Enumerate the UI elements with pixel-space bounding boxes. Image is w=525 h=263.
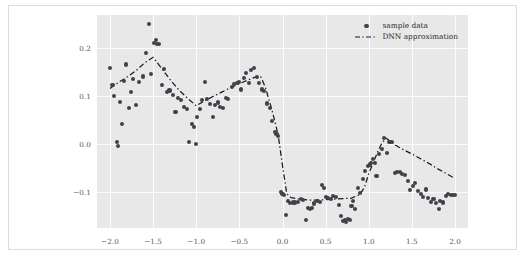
data-point [141, 74, 145, 78]
x-tick-label: −1.0 [187, 237, 205, 246]
data-point [208, 102, 212, 106]
data-point [221, 106, 225, 110]
data-point [173, 110, 177, 114]
data-point [270, 119, 274, 123]
data-point [424, 187, 428, 191]
x-tick-label: 0.0 [277, 237, 289, 246]
data-point [192, 125, 196, 129]
data-point [147, 22, 151, 26]
data-point [198, 107, 202, 111]
data-point [179, 98, 183, 102]
data-point [157, 42, 161, 46]
data-point [167, 88, 171, 92]
data-point [268, 106, 272, 110]
legend-item-sample-data: sample data [353, 21, 458, 32]
data-point [421, 195, 425, 199]
data-point [441, 200, 445, 204]
legend-label-dnn-approximation: DNN approximation [379, 32, 458, 43]
x-tick-label: −1.5 [144, 237, 162, 246]
data-point [374, 174, 378, 178]
plot-area: sample data DNN approximation [97, 15, 468, 228]
data-point [239, 87, 243, 91]
data-point [337, 203, 341, 207]
dnn-approximation-polyline [110, 57, 455, 200]
data-point [385, 151, 389, 155]
x-tick-label: 1.5 [406, 237, 418, 246]
legend-item-dnn-approximation: DNN approximation [353, 32, 458, 43]
data-point [216, 100, 220, 104]
chart-legend: sample data DNN approximation [349, 18, 464, 45]
x-tick-label: 0.5 [320, 237, 332, 246]
x-tick-label: 2.0 [449, 237, 461, 246]
data-point [348, 218, 352, 222]
data-point [380, 147, 384, 151]
data-point [134, 103, 138, 107]
data-point [160, 83, 164, 87]
legend-marker-icon [353, 24, 379, 28]
data-point [265, 101, 269, 105]
y-tick-label: 0.0 [79, 139, 91, 148]
data-point [211, 115, 215, 119]
legend-label-sample-data: sample data [379, 21, 428, 32]
y-tick-label: 0.2 [79, 43, 91, 52]
figure-canvas: sample data DNN approximation −2.0−1.5−1… [8, 5, 517, 250]
data-point [437, 207, 441, 211]
data-point [247, 81, 251, 85]
data-point [255, 75, 259, 79]
legend-dashed-line-icon [353, 34, 379, 40]
x-tick-label: −0.5 [230, 237, 248, 246]
data-point [318, 200, 322, 204]
data-point [242, 76, 246, 80]
data-point [116, 144, 120, 148]
data-point [301, 198, 305, 202]
x-tick-label: 1.0 [363, 237, 375, 246]
data-point [276, 134, 280, 138]
data-point [356, 186, 360, 190]
y-tick-label: −0.1 [73, 187, 91, 196]
data-point [361, 177, 365, 181]
x-tick-label: −2.0 [101, 237, 119, 246]
data-point [284, 213, 288, 217]
data-point [353, 207, 357, 211]
data-point [124, 62, 128, 66]
data-point [118, 100, 122, 104]
data-point [252, 66, 256, 70]
data-point [110, 83, 114, 87]
y-tick-label: 0.1 [79, 91, 91, 100]
data-point [373, 161, 377, 165]
